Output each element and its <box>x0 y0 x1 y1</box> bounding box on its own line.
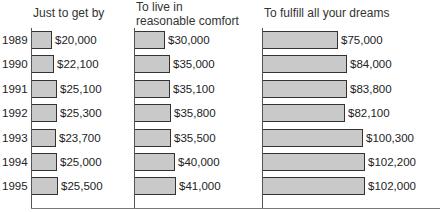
bar <box>32 31 52 49</box>
value-label: $30,000 <box>168 34 210 46</box>
panel-title: To fulfill all your dreams <box>264 7 389 20</box>
value-label: $82,100 <box>348 107 390 119</box>
value-label: $75,000 <box>341 34 383 46</box>
value-label: $25,500 <box>61 180 103 192</box>
bar <box>263 177 365 195</box>
value-label: $35,800 <box>174 107 216 119</box>
value-label: $25,100 <box>60 83 102 95</box>
year-label: 1993 <box>2 132 28 144</box>
bar <box>135 129 171 147</box>
bar <box>135 153 175 171</box>
bar <box>135 177 176 195</box>
bar <box>32 55 54 73</box>
bar <box>135 55 170 73</box>
value-label: $23,700 <box>59 132 101 144</box>
baseline-axis <box>31 208 440 209</box>
value-label: $41,000 <box>179 180 221 192</box>
bar <box>135 80 170 98</box>
bar <box>263 104 345 122</box>
bar <box>32 129 56 147</box>
panel-title: reasonable comfort <box>136 15 239 28</box>
bar <box>135 31 165 49</box>
bar <box>32 177 58 195</box>
value-label: $25,300 <box>60 107 102 119</box>
year-label: 1991 <box>2 83 28 95</box>
bar <box>135 104 171 122</box>
year-label: 1994 <box>2 156 28 168</box>
panel-title: To live in <box>136 1 183 14</box>
value-label: $102,000 <box>368 180 416 192</box>
year-label: 1990 <box>2 58 28 70</box>
bar <box>263 129 363 147</box>
bar <box>263 80 347 98</box>
year-label: 1992 <box>2 107 28 119</box>
value-label: $102,200 <box>368 156 416 168</box>
bar <box>263 153 365 171</box>
bar <box>32 153 57 171</box>
value-label: $83,800 <box>350 83 392 95</box>
value-label: $35,100 <box>173 83 215 95</box>
value-label: $84,000 <box>350 58 392 70</box>
value-label: $100,300 <box>366 132 414 144</box>
year-label: 1989 <box>2 34 28 46</box>
bar <box>32 104 57 122</box>
value-label: $22,100 <box>57 58 99 70</box>
bar <box>263 31 338 49</box>
year-label: 1995 <box>2 180 28 192</box>
value-label: $40,000 <box>178 156 220 168</box>
value-label: $25,000 <box>60 156 102 168</box>
value-label: $20,000 <box>55 34 97 46</box>
value-label: $35,500 <box>174 132 216 144</box>
bar <box>263 55 347 73</box>
value-label: $35,000 <box>173 58 215 70</box>
bar <box>32 80 57 98</box>
panel-title: Just to get by <box>33 7 104 20</box>
